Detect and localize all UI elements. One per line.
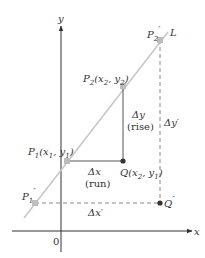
point-Q [120, 158, 125, 163]
rise-label: (rise) [127, 121, 154, 132]
y-axis-label: y [57, 13, 64, 24]
delta-x-prime-label: Δx′ [87, 207, 104, 218]
origin-label: 0 [53, 236, 59, 247]
Q-label: Q(x2, y1) [120, 167, 163, 181]
P1-label: P1(x1, y1) [27, 146, 74, 160]
diagram-svg: y x 0 L P2′ P2(x2, y2) P1(x1, y1) Q(x2, … [0, 0, 205, 258]
x-axis-label: x [194, 226, 200, 237]
P2-label: P2(x2, y2) [82, 73, 129, 87]
line-L-label: L [169, 27, 177, 38]
delta-y-label: Δy [131, 109, 145, 120]
delta-x-label: Δx [87, 166, 101, 177]
Q-prime-label: Q′ [164, 194, 175, 209]
slope-diagram: y x 0 L P2′ P2(x2, y2) P1(x1, y1) Q(x2, … [0, 0, 205, 258]
run-label: (run) [85, 178, 111, 189]
point-Q-prime [157, 200, 162, 205]
delta-y-prime-label: Δy′ [163, 117, 180, 128]
